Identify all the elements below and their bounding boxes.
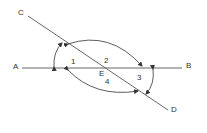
angle-label-1: 1 [71,58,75,66]
angle-label-4: 4 [105,78,109,86]
angle-arc-left-small [54,43,62,67]
angle-arc-right-small [146,69,153,94]
line-cd [28,16,168,110]
diagram-canvas: A B C D E 1 2 3 4 [0,0,207,133]
point-label-a: A [13,63,18,71]
point-label-c: C [18,9,24,17]
point-label-d: D [171,106,177,114]
point-label-e: E [99,70,104,78]
angle-label-3: 3 [137,74,141,82]
angle-label-2: 2 [104,57,108,65]
point-label-b: B [186,62,191,70]
